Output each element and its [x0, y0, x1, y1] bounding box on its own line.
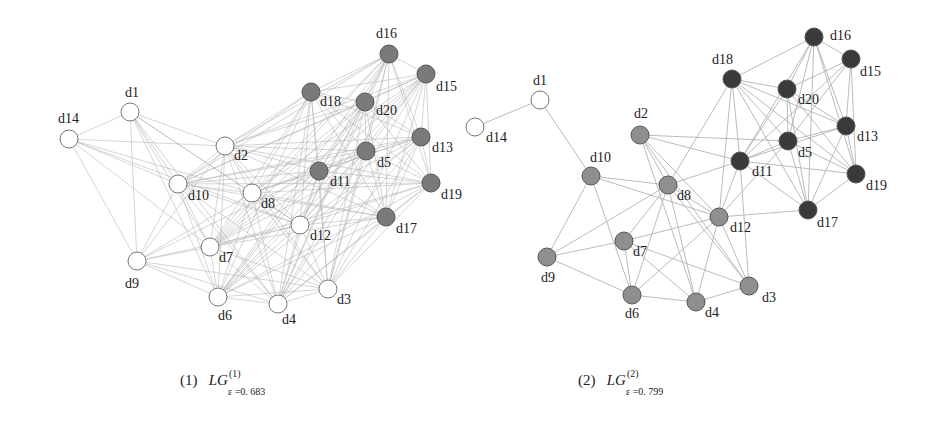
graph-edge — [719, 79, 732, 217]
graph-node-d9 — [538, 248, 556, 266]
node-label-d15: d15 — [436, 79, 457, 94]
graph-edge — [696, 217, 719, 302]
node-label-d7: d7 — [219, 250, 233, 265]
graph-edge — [328, 183, 431, 289]
graph-node-d18 — [302, 83, 320, 101]
node-label-d16: d16 — [830, 28, 851, 43]
graph-node-d16 — [805, 28, 823, 46]
node-label-d2: d2 — [234, 148, 248, 163]
graph-edge — [547, 241, 624, 257]
node-label-d18: d18 — [320, 94, 341, 109]
graph-edge — [178, 92, 311, 184]
node-label-d6: d6 — [218, 308, 232, 323]
panel2-caption-symbol: LG — [607, 372, 626, 388]
graph-node-d7 — [201, 238, 219, 256]
graph-node-d4 — [687, 293, 705, 311]
graph-node-d7 — [615, 232, 633, 250]
graph-node-d3 — [740, 277, 758, 295]
graph-node-d16 — [380, 45, 398, 63]
graph-node-d4 — [269, 295, 287, 313]
node-label-d11: d11 — [330, 174, 350, 189]
panel2-caption-subscript: ε =0. 799 — [626, 386, 663, 397]
graph-edge — [547, 185, 668, 257]
graph-edge — [426, 74, 431, 183]
graph-edge — [178, 183, 431, 184]
graph-edge — [808, 37, 814, 210]
panel1-caption: (1) LG(1)ε =0. 683 — [180, 372, 241, 389]
graph-node-d14 — [60, 130, 78, 148]
node-label-d20: d20 — [798, 92, 819, 107]
graph-node-d2 — [631, 126, 649, 144]
graph-node-d11 — [310, 162, 328, 180]
graph-edge — [547, 176, 591, 257]
graph-edge — [719, 141, 788, 217]
graph-edge — [69, 139, 178, 184]
panel2-caption-index: (2) — [578, 372, 596, 388]
node-label-d1: d1 — [125, 85, 139, 100]
graph-edge — [69, 139, 137, 261]
graph-edge — [130, 112, 225, 146]
node-label-d11: d11 — [752, 164, 772, 179]
node-label-d7: d7 — [633, 244, 647, 259]
graph-node-d11 — [731, 152, 749, 170]
graph-node-d5 — [357, 142, 375, 160]
node-label-d4: d4 — [705, 305, 719, 320]
graph-node-d12 — [710, 208, 728, 226]
node-label-d17: d17 — [817, 215, 838, 230]
graph-edge — [547, 257, 632, 295]
graph-node-d13 — [412, 128, 430, 146]
graph-edge — [668, 161, 740, 185]
graph-edge — [225, 92, 311, 146]
graph-edge — [640, 135, 696, 302]
node-label-d1: d1 — [533, 73, 547, 88]
graph-node-d6 — [209, 288, 227, 306]
node-label-d5: d5 — [798, 145, 812, 160]
graph-edge — [475, 100, 540, 127]
graph-node-d8 — [243, 184, 261, 202]
graph-edge — [137, 261, 218, 297]
node-label-d4: d4 — [282, 312, 296, 327]
node-label-d9: d9 — [541, 270, 555, 285]
node-label-d10: d10 — [590, 150, 611, 165]
node-label-d14: d14 — [486, 130, 507, 145]
panel1-caption-superscript: (1) — [229, 368, 241, 379]
node-label-d15: d15 — [860, 64, 881, 79]
graph-node-d1 — [531, 91, 549, 109]
node-label-d16: d16 — [376, 26, 397, 41]
graph-node-d17 — [377, 208, 395, 226]
node-label-d19: d19 — [866, 178, 887, 193]
graph-edge — [719, 210, 808, 217]
node-label-d18: d18 — [712, 52, 733, 67]
graph-edge — [846, 59, 851, 126]
node-label-d5: d5 — [377, 155, 391, 170]
node-label-d10: d10 — [188, 188, 209, 203]
graph-edge — [740, 161, 808, 210]
node-label-d17: d17 — [396, 221, 417, 236]
graph-edge — [328, 217, 386, 289]
graph-node-d9 — [128, 252, 146, 270]
graph-edge — [814, 37, 846, 126]
graph-edge — [210, 193, 252, 247]
graph-node-d18 — [723, 70, 741, 88]
graph-node-d10 — [169, 175, 187, 193]
node-label-d8: d8 — [261, 196, 275, 211]
graph-node-d1 — [121, 103, 139, 121]
graph-edge — [787, 59, 851, 89]
node-label-d8: d8 — [677, 188, 691, 203]
panel1-caption-subscript: ε =0. 683 — [228, 386, 265, 397]
node-label-d13: d13 — [432, 140, 453, 155]
graph-canvas: d1d2d3d4d5d6d7d8d9d10d11d12d13d14d15d16d… — [0, 0, 940, 428]
panel1-caption-symbol: LG — [209, 372, 228, 388]
node-label-d6: d6 — [625, 306, 639, 321]
graph-node-d17 — [799, 201, 817, 219]
node-label-d2: d2 — [634, 106, 648, 121]
graph-node-d12 — [291, 216, 309, 234]
node-label-d12: d12 — [310, 228, 331, 243]
graph-edge — [130, 112, 178, 184]
graph-edge — [668, 79, 732, 185]
panel1-caption-index: (1) — [180, 372, 198, 388]
panel2-caption: (2) LG(2)ε =0. 799 — [578, 372, 639, 389]
graph-edge — [632, 295, 696, 302]
node-label-d9: d9 — [125, 276, 139, 291]
graph-node-d20 — [356, 93, 374, 111]
